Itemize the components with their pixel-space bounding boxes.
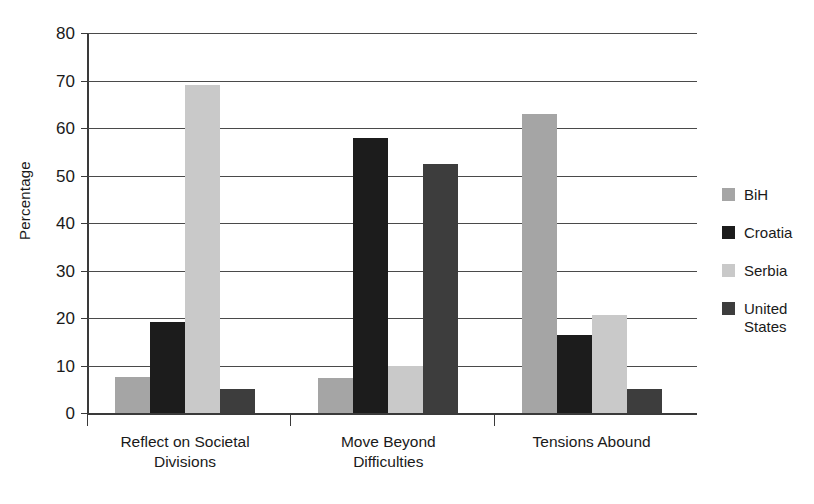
y-axis-tick-label: 50	[29, 168, 75, 185]
bar-united-states-3	[627, 389, 662, 413]
y-axis-tick-mark	[81, 176, 88, 177]
legend: BiHCroatiaSerbiaUnitedStates	[722, 186, 814, 356]
y-axis-tick-label: 60	[29, 120, 75, 137]
y-axis-tick-label: 30	[29, 263, 75, 280]
x-axis-category-label-line1: Reflect on Societal	[120, 433, 249, 450]
bar-serbia-3	[592, 315, 627, 413]
legend-swatch-icon	[722, 226, 735, 239]
x-axis-tick-mark	[290, 413, 291, 426]
bar-chart: Percentage 80706050403020100 Reflect on …	[0, 0, 814, 504]
y-axis-tick-mark	[81, 33, 88, 34]
bar-bih-2	[318, 378, 353, 413]
y-axis-tick-mark	[81, 271, 88, 272]
bar-bih-3	[522, 114, 557, 413]
bar-croatia-1	[150, 322, 185, 413]
x-axis-category-label: Reflect on SocietalDivisions	[85, 432, 285, 472]
legend-label: Croatia	[744, 224, 792, 242]
x-axis-tick-mark	[87, 413, 88, 426]
x-axis-category-label-line1: Tensions Abound	[533, 433, 651, 450]
legend-swatch-icon	[722, 302, 735, 315]
y-axis-tick-mark	[81, 81, 88, 82]
legend-item-croatia[interactable]: Croatia	[722, 224, 814, 242]
x-axis-category-label-line1: Move Beyond	[341, 433, 436, 450]
legend-label: BiH	[744, 186, 768, 204]
y-axis-tick-mark	[81, 366, 88, 367]
bar-united-states-2	[423, 164, 458, 413]
y-axis-tick-mark	[81, 223, 88, 224]
gridline	[87, 176, 697, 177]
legend-swatch-icon	[722, 264, 735, 277]
gridline	[87, 223, 697, 224]
gridline	[87, 81, 697, 82]
legend-swatch-icon	[722, 188, 735, 201]
bar-serbia-1	[185, 85, 220, 413]
gridline	[87, 33, 697, 34]
gridline	[87, 413, 697, 415]
bar-bih-1	[115, 377, 150, 413]
x-axis-category-label-line2: Difficulties	[288, 452, 488, 472]
x-axis-tick-mark	[494, 413, 495, 426]
x-axis-category-label: Move BeyondDifficulties	[288, 432, 488, 472]
bar-united-states-1	[220, 389, 255, 413]
legend-item-bih[interactable]: BiH	[722, 186, 814, 204]
y-axis-tick-label: 20	[29, 310, 75, 327]
y-axis-tick-mark	[81, 128, 88, 129]
bar-croatia-3	[557, 335, 592, 413]
bar-serbia-2	[388, 366, 423, 414]
y-axis-tick-mark	[81, 318, 88, 319]
y-axis-tick-label: 10	[29, 358, 75, 375]
legend-label: UnitedStates	[744, 300, 787, 336]
plot-area	[87, 33, 697, 413]
legend-item-united-states[interactable]: UnitedStates	[722, 300, 814, 336]
legend-item-serbia[interactable]: Serbia	[722, 262, 814, 280]
x-axis-category-label: Tensions Abound	[492, 432, 692, 452]
y-axis-tick-label: 0	[29, 405, 75, 422]
gridline	[87, 271, 697, 272]
y-axis-tick-label: 40	[29, 215, 75, 232]
y-axis-tick-label: 70	[29, 73, 75, 90]
gridline	[87, 128, 697, 129]
bar-croatia-2	[353, 138, 388, 414]
legend-label: Serbia	[744, 262, 787, 280]
y-axis-tick-label: 80	[29, 25, 75, 42]
x-axis-category-label-line2: Divisions	[85, 452, 285, 472]
